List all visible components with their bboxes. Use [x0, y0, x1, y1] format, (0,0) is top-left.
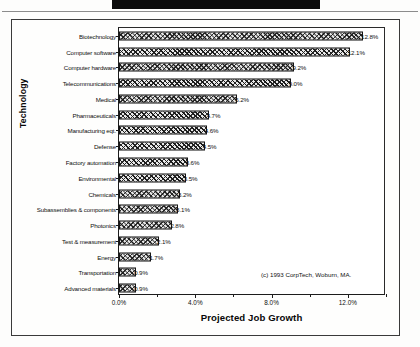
bar: [119, 173, 186, 182]
bar: [119, 205, 178, 214]
bar-value-label: 6.2%: [235, 95, 249, 102]
y-axis-title: Technology: [18, 78, 28, 128]
bar-row: Computer hardware9.2%: [119, 60, 384, 76]
bar-value-label: 12.1%: [348, 48, 365, 55]
bar-row: Factory automation3.6%: [119, 154, 384, 170]
bar-value-label: 2.8%: [170, 222, 184, 229]
category-label: Biotechnology: [79, 32, 116, 39]
x-axis-tick-label: 0.0%: [112, 299, 127, 306]
category-label: Energy: [97, 253, 116, 260]
bar: [119, 157, 188, 166]
category-label: Environmental: [78, 174, 116, 181]
bar-value-label: 2.1%: [157, 237, 171, 244]
category-label: Subassemblies & components: [37, 206, 116, 213]
bar-value-label: 9.2%: [292, 64, 306, 71]
bar-value-label: 3.2%: [178, 190, 192, 197]
bar: [119, 126, 207, 135]
bar-row: Photonics2.8%: [119, 217, 384, 233]
bar-row: Subassemblies & components3.1%: [119, 201, 384, 217]
x-axis-title: Projected Job Growth: [118, 312, 385, 323]
bar-value-label: 4.6%: [205, 127, 219, 134]
x-axis-minor-tick: [157, 294, 158, 297]
bar: [119, 110, 209, 119]
bar-row: Telecommunications9.0%: [119, 75, 384, 91]
category-label: Medical: [96, 95, 116, 102]
bar: [119, 79, 291, 88]
category-label: Chemicals: [88, 190, 116, 197]
bar-value-label: 4.5%: [203, 143, 217, 150]
bar-value-label: 0.9%: [134, 269, 148, 276]
bar-value-label: 9.0%: [289, 80, 303, 87]
category-label: Manufacturing eqt.: [67, 127, 116, 134]
category-label: Transportation: [78, 269, 116, 276]
x-axis-tick-label: 4.0%: [188, 299, 203, 306]
bar: [119, 236, 159, 245]
x-axis-minor-tick: [386, 294, 387, 297]
bar: [119, 31, 363, 40]
bar: [119, 189, 180, 198]
category-label: Defense: [94, 143, 116, 150]
bar-value-label: 4.7%: [207, 111, 221, 118]
bar-row: Manufacturing eqt.4.6%: [119, 123, 384, 139]
x-axis-tick: [348, 294, 349, 298]
plot-area: Biotechnology12.8%Computer software12.1%…: [118, 27, 385, 295]
bar: [119, 63, 294, 72]
bar-row: Test & measurement2.1%: [119, 233, 384, 249]
category-label: Computer software: [66, 48, 116, 55]
bar: [119, 221, 172, 230]
bar: [119, 252, 151, 261]
x-axis-minor-tick: [310, 294, 311, 297]
bar-row: Environmental3.5%: [119, 170, 384, 186]
bar: [119, 142, 205, 151]
bar-value-label: 3.1%: [176, 206, 190, 213]
category-label: Advanced materials: [64, 285, 116, 292]
bar-row: Pharmaceuticals4.7%: [119, 107, 384, 123]
bar: [119, 47, 350, 56]
bar-value-label: 3.6%: [186, 158, 200, 165]
bar-value-label: 1.7%: [149, 253, 163, 260]
category-label: Factory automation: [66, 158, 116, 165]
bar-rows: Biotechnology12.8%Computer software12.1%…: [119, 28, 384, 294]
bar-row: Computer software12.1%: [119, 44, 384, 60]
bar-value-label: 0.9%: [134, 285, 148, 292]
bar-value-label: 3.5%: [184, 174, 198, 181]
bar-row: Chemicals3.2%: [119, 186, 384, 202]
x-axis-tick: [195, 294, 196, 298]
category-label: Photonics: [90, 222, 116, 229]
x-axis-tick: [272, 294, 273, 298]
category-label: Pharmaceuticals: [73, 111, 117, 118]
copyright-note: (c) 1993 CorpTech, Woburn, MA.: [261, 271, 351, 278]
bar-row: Defense4.5%: [119, 138, 384, 154]
bar-row: Advanced materials0.9%: [119, 280, 384, 296]
chart-page: Technology Biotechnology12.8%Computer so…: [0, 0, 420, 347]
scan-header-band: [112, 0, 320, 9]
bar-value-label: 12.8%: [361, 32, 378, 39]
bar-row: Biotechnology12.8%: [119, 28, 384, 44]
x-axis-minor-tick: [233, 294, 234, 297]
category-label: Telecommunications: [63, 80, 116, 87]
bar-row: Energy1.7%: [119, 249, 384, 265]
bar-row: Medical6.2%: [119, 91, 384, 107]
x-axis-tick: [119, 294, 120, 298]
x-axis-tick-label: 12.0%: [339, 299, 357, 306]
x-axis-tick-label: 8.0%: [264, 299, 279, 306]
category-label: Computer hardware: [64, 64, 116, 71]
scan-header-rule: [2, 11, 418, 12]
category-label: Test & measurement: [62, 237, 116, 244]
bar: [119, 94, 237, 103]
